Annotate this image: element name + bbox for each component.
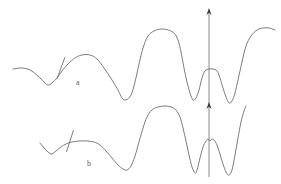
trace-b-label: b — [87, 159, 91, 168]
trace-a-tick-mark — [57, 58, 65, 79]
trace-group-b — [40, 106, 246, 175]
trace-group-a — [13, 28, 275, 103]
upper-arrow — [206, 8, 211, 107]
spectra-figure: a b — [0, 0, 281, 184]
trace-a-path — [13, 28, 275, 103]
trace-b-path — [40, 106, 246, 175]
trace-a-label: a — [76, 78, 80, 87]
figure-canvas: a b — [0, 0, 281, 184]
trace-b-tick-mark — [67, 131, 74, 152]
